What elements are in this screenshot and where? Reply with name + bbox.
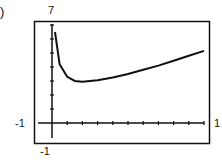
axes bbox=[38, 24, 204, 138]
function-curve bbox=[55, 32, 204, 82]
plot bbox=[0, 0, 222, 164]
plot-frame bbox=[35, 22, 210, 144]
